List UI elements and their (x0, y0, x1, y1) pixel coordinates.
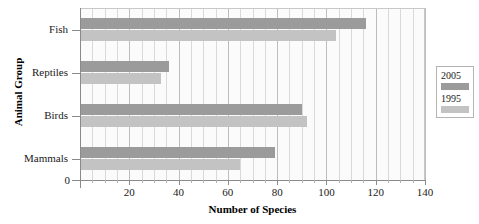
y-axis-label-fish: Fish (49, 24, 68, 35)
bar-birds-2005 (80, 104, 302, 115)
x-tick-minor (400, 180, 401, 183)
x-axis-line (72, 180, 425, 181)
y-tick-mammals (72, 159, 80, 160)
x-tick-major-0 (80, 180, 81, 185)
x-tick-minor (142, 180, 143, 183)
bar-mammals-2005 (80, 147, 275, 158)
y-tick-reptiles (72, 73, 80, 74)
x-tick-minor (92, 180, 93, 183)
x-tick-minor (240, 180, 241, 183)
x-tick-minor (314, 180, 315, 183)
x-tick-minor (105, 180, 106, 183)
x-axis-label-120: 120 (356, 186, 396, 198)
x-tick-minor (413, 180, 414, 183)
y-axis-label-reptiles: Reptiles (32, 67, 68, 78)
x-axis-label-60: 60 (208, 186, 248, 198)
y-axis-label-mammals: Mammals (24, 153, 68, 164)
x-tick-minor (117, 180, 118, 183)
x-tick-minor (154, 180, 155, 183)
y-axis-title: Animal Group (12, 12, 24, 172)
chart-legend: 20051995 (436, 66, 474, 118)
x-tick-minor (388, 180, 389, 183)
x-axis-label-100: 100 (306, 186, 346, 198)
x-tick-minor (339, 180, 340, 183)
x-tick-major-120 (376, 180, 377, 185)
bar-reptiles-1995 (80, 73, 161, 84)
x-tick-minor (302, 180, 303, 183)
x-tick-major-100 (326, 180, 327, 185)
legend-entry-2005: 2005 (441, 70, 469, 90)
x-tick-minor (166, 180, 167, 183)
x-axis-label-20: 20 (109, 186, 149, 198)
legend-swatch-1995 (441, 106, 469, 113)
x-tick-major-40 (179, 180, 180, 185)
x-axis-label-40: 40 (159, 186, 199, 198)
legend-entry-1995: 1995 (441, 93, 469, 113)
y-tick-birds (72, 116, 80, 117)
y-axis-line (80, 8, 81, 188)
legend-swatch-2005 (441, 83, 469, 90)
bar-fish-1995 (80, 30, 336, 41)
x-tick-minor (216, 180, 217, 183)
x-tick-major-20 (129, 180, 130, 185)
y-axis-origin-label: 0 (58, 174, 70, 186)
x-tick-major-80 (277, 180, 278, 185)
x-tick-minor (289, 180, 290, 183)
x-tick-minor (203, 180, 204, 183)
x-axis-label-80: 80 (257, 186, 297, 198)
x-axis-title: Number of Species (80, 203, 425, 215)
y-axis-label-birds: Birds (44, 110, 68, 121)
bar-fish-2005 (80, 18, 366, 29)
x-tick-minor (265, 180, 266, 183)
legend-label-2005: 2005 (441, 70, 469, 82)
bar-reptiles-2005 (80, 61, 169, 72)
x-tick-minor (363, 180, 364, 183)
x-tick-minor (191, 180, 192, 183)
x-tick-minor (253, 180, 254, 183)
x-tick-major-140 (425, 180, 426, 185)
y-tick-fish (72, 30, 80, 31)
bar-chart: MammalsBirdsReptilesFish2040608010012014… (0, 0, 479, 224)
legend-label-1995: 1995 (441, 93, 469, 105)
bar-mammals-1995 (80, 159, 240, 170)
x-tick-major-60 (228, 180, 229, 185)
bar-birds-1995 (80, 116, 307, 127)
x-tick-minor (351, 180, 352, 183)
x-axis-label-140: 140 (405, 186, 445, 198)
